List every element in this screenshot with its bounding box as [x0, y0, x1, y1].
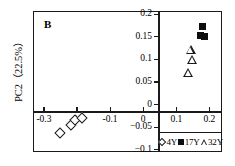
data-point-diamond — [54, 127, 65, 138]
x-tick — [176, 107, 177, 111]
legend-label: 17Y — [185, 137, 200, 147]
diamond-open-icon — [158, 138, 166, 146]
y-tick-label: −0.1 — [112, 145, 152, 155]
data-point-triangle — [183, 68, 193, 77]
legend-item: 17Y — [177, 137, 199, 147]
y-axis-title: PC2（22.5%） — [10, 15, 25, 125]
panel-label: B — [44, 18, 51, 30]
x-tick-label: 0.2 — [193, 115, 225, 125]
y-tick-label: 0.2 — [112, 9, 152, 19]
legend-label: 32Y — [208, 137, 223, 147]
data-point-square — [201, 33, 208, 40]
pca-scatter-figure: PC2（22.5%） B -0.3-0.2-0.100.10.2 0.20.15… — [0, 0, 235, 166]
y-tick — [154, 59, 158, 60]
y-tick-label: 0 — [112, 100, 152, 110]
y-tick — [154, 149, 158, 150]
legend-label: 4Y — [167, 137, 178, 147]
data-point-triangle — [186, 45, 196, 54]
y-tick — [154, 104, 158, 105]
legend-item: 4Y — [159, 137, 177, 147]
x-axis-line — [34, 111, 221, 113]
x-tick — [209, 107, 210, 111]
x-tick-label: 0.1 — [160, 115, 192, 125]
legend-item: 32Y — [200, 137, 223, 147]
x-tick — [43, 107, 44, 111]
data-point-triangle — [187, 55, 197, 64]
x-tick — [76, 107, 77, 111]
y-tick — [154, 127, 158, 128]
legend: 4Y17Y32Y — [159, 132, 221, 151]
y-tick-label: −0.05 — [112, 122, 152, 132]
y-tick — [154, 36, 158, 37]
x-tick — [110, 107, 111, 111]
y-axis-line — [158, 12, 160, 152]
data-point-square — [199, 23, 206, 30]
y-tick-label: 0.1 — [112, 54, 152, 64]
plot-frame: B -0.3-0.2-0.100.10.2 0.20.150.10.050−0.… — [33, 11, 222, 152]
y-tick-label: 0.05 — [112, 77, 152, 87]
square-filled-icon — [178, 139, 184, 145]
y-tick — [154, 14, 158, 15]
x-tick-label: -0.3 — [28, 115, 60, 125]
y-tick-label: 0.15 — [112, 32, 152, 42]
triangle-open-icon — [201, 139, 207, 145]
y-tick — [154, 81, 158, 82]
